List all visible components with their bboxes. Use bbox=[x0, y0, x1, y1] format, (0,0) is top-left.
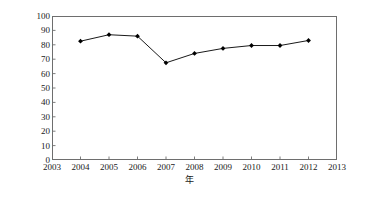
y-axis-tick-label: 90 bbox=[24, 26, 50, 35]
data-point-marker bbox=[78, 39, 83, 44]
data-point-marker bbox=[278, 43, 283, 48]
data-point-marker bbox=[249, 43, 254, 48]
data-point-marker bbox=[192, 51, 197, 56]
plot-area bbox=[52, 16, 337, 160]
nitrogen-load-line-chart: 氮负荷/(kg/hm2) 0102030405060708090100 2003… bbox=[0, 0, 378, 201]
y-axis-ticks bbox=[52, 30, 56, 145]
plot-svg bbox=[52, 16, 337, 160]
y-axis-tick-label: 50 bbox=[24, 84, 50, 93]
y-axis-tick-label: 40 bbox=[24, 98, 50, 107]
series-line-nitrogen-load bbox=[81, 35, 309, 63]
x-axis-tick-label: 2013 bbox=[315, 163, 359, 172]
y-axis-tick-label: 100 bbox=[24, 12, 50, 21]
y-axis-tick-label: 20 bbox=[24, 127, 50, 136]
y-axis-tick-label: 30 bbox=[24, 112, 50, 121]
data-point-marker bbox=[306, 38, 311, 43]
data-point-marker bbox=[107, 32, 112, 37]
y-axis-tick-labels: 0102030405060708090100 bbox=[24, 16, 50, 160]
series-markers-nitrogen-load bbox=[78, 32, 311, 65]
y-axis-tick-label: 70 bbox=[24, 55, 50, 64]
y-axis-tick-label: 60 bbox=[24, 69, 50, 78]
y-axis-tick-label: 80 bbox=[24, 40, 50, 49]
y-axis-tick-label: 10 bbox=[24, 141, 50, 150]
data-point-marker bbox=[221, 46, 226, 51]
x-axis-ticks bbox=[81, 157, 309, 161]
x-axis-title: 年 bbox=[0, 176, 378, 185]
